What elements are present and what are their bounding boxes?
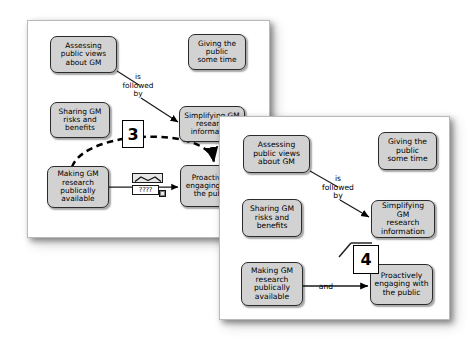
callout-4-leader-line [339,243,351,257]
node-simplifying-gm-research-information[interactable]: Simplifying GM research information [371,200,435,238]
callout-number-4: 4 [353,245,379,274]
node-sharing-gm-risks-and-benefits[interactable]: Sharing GM risks and benefits [50,102,110,138]
link-label-is-followed-by[interactable]: is followed by [314,175,362,201]
link-label-and[interactable]: and [314,283,338,292]
edge-label-to-simplifying [141,98,178,122]
node-giving-the-public-some-time[interactable]: Giving the public some time [188,34,246,70]
node-giving-the-public-some-time[interactable]: Giving the public some time [378,132,437,170]
figure-canvas: Assessing public views about GM Giving t… [0,0,471,338]
node-assessing-public-views[interactable]: Assessing public views about GM [243,135,310,173]
link-label-editor-widget[interactable]: ???? [132,173,165,199]
node-proactively-engaging-with-the-public[interactable]: Proactively engaging with the public [370,264,433,305]
editor-curve-icon [132,173,163,183]
callout-number-3: 3 [122,120,144,148]
edge-label-to-simplifying [340,200,369,217]
node-sharing-gm-risks-and-benefits[interactable]: Sharing GM risks and benefits [242,199,302,237]
node-assessing-public-views[interactable]: Assessing public views about GM [50,36,117,73]
link-label-is-followed-by[interactable]: is followed by [114,73,162,99]
concept-map-panel-2[interactable]: Assessing public views about GM Giving t… [219,116,450,320]
node-making-gm-research-publically-available[interactable]: Making GM research publically available [241,262,303,306]
editor-apply-button[interactable] [159,190,166,197]
editor-text-field[interactable]: ???? [132,185,159,195]
node-making-gm-research-publically-available[interactable]: Making GM research publically available [47,166,109,208]
